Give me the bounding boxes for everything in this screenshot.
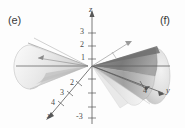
y-tick-label-4: 4 bbox=[143, 86, 147, 95]
x-tick-label-4: 4 bbox=[51, 98, 55, 107]
z-axis-label: z bbox=[89, 4, 92, 14]
z-tick-label-neg3: -3 bbox=[76, 112, 83, 121]
part-label-f: (f) bbox=[160, 14, 170, 26]
z-tick-label-2: 2 bbox=[80, 40, 84, 49]
z-tick-label-1: 1 bbox=[81, 53, 85, 62]
y-axis-back-tick bbox=[112, 52, 116, 58]
y-axis-back-arrow bbox=[125, 41, 132, 46]
x-tick-label-2: 2 bbox=[70, 78, 74, 87]
y-axis-label: y bbox=[166, 85, 170, 95]
z-tick-label-3: 3 bbox=[80, 27, 84, 36]
figure-container: (e) (f) z x y 3 2 1 -3 2 3 4 4 bbox=[0, 0, 185, 128]
x-tick-label-3: 3 bbox=[60, 88, 64, 97]
cone-plot-graphic bbox=[0, 0, 185, 128]
x-axis-label: x bbox=[47, 110, 51, 120]
part-label-e: (e) bbox=[8, 14, 21, 26]
right-cone-surface bbox=[92, 46, 170, 108]
